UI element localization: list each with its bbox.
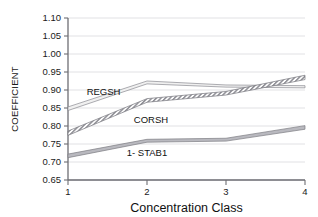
series-band-1-stab1 bbox=[68, 126, 305, 158]
series-label-corsh: CORSH bbox=[134, 114, 168, 125]
y-tick-label: 1.00 bbox=[43, 48, 62, 59]
series-label-regsh: REGSH bbox=[87, 86, 121, 97]
coefficient-line-chart: 0.650.700.750.800.850.900.951.001.051.10… bbox=[0, 0, 318, 217]
y-axis-title: COEFFICIENT bbox=[9, 66, 20, 132]
y-tick-label: 0.75 bbox=[43, 138, 62, 149]
x-tick-label: 1 bbox=[65, 186, 70, 197]
x-axis-ticks: 1234 bbox=[65, 180, 307, 197]
y-tick-label: 0.90 bbox=[43, 84, 62, 95]
series-label-1-stab1: 1- STAB1 bbox=[127, 147, 167, 158]
y-tick-label: 0.95 bbox=[43, 66, 62, 77]
y-tick-label: 0.70 bbox=[43, 156, 62, 167]
y-tick-label: 0.65 bbox=[43, 174, 62, 185]
y-tick-label: 0.85 bbox=[43, 102, 62, 113]
x-tick-label: 3 bbox=[223, 186, 228, 197]
chart-container: 0.650.700.750.800.850.900.951.001.051.10… bbox=[0, 0, 318, 217]
x-axis-title: Concentration Class bbox=[130, 201, 243, 215]
y-tick-label: 0.80 bbox=[43, 120, 62, 131]
y-axis-ticks: 0.650.700.750.800.850.900.951.001.051.10 bbox=[43, 12, 69, 185]
gridlines bbox=[68, 18, 305, 180]
x-tick-label: 2 bbox=[144, 186, 149, 197]
y-tick-label: 1.10 bbox=[43, 12, 62, 23]
y-tick-label: 1.05 bbox=[43, 30, 62, 41]
x-tick-label: 4 bbox=[302, 186, 307, 197]
